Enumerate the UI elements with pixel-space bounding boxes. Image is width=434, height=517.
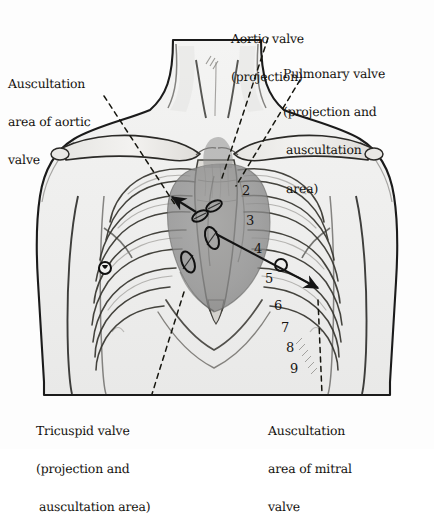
rib-number-2: 2: [242, 183, 250, 198]
label-line: Auscultation: [8, 78, 91, 91]
label-line: valve: [8, 154, 91, 167]
label-line: auscultation: [283, 144, 385, 157]
label-tricuspid-valve: Tricuspid valve (projection and ausculta…: [36, 399, 150, 517]
label-line: Pulmonary valve: [283, 68, 385, 81]
label-aortic-auscultation: Auscultation area of aortic valve: [8, 52, 91, 193]
label-line: auscultation area): [36, 501, 150, 514]
label-line: Tricuspid valve: [36, 425, 150, 438]
rib-number-9: 9: [290, 361, 298, 376]
rib-number-5: 5: [265, 271, 273, 286]
aortic-auscultation-point: [99, 262, 111, 274]
rib-number-8: 8: [286, 340, 294, 355]
rib-number-4: 4: [254, 241, 262, 256]
label-line: (projection and: [36, 463, 150, 476]
rib-number-3: 3: [246, 213, 254, 228]
label-pulmonary-valve: Pulmonary valve (projection and ausculta…: [283, 42, 385, 221]
label-line: area of mitral: [268, 463, 352, 476]
rib-number-6: 6: [274, 298, 282, 313]
label-line: area): [283, 183, 385, 196]
label-line: valve: [268, 501, 352, 514]
label-mitral-auscultation: Auscultation area of mitral valve: [268, 399, 352, 517]
rib-number-7: 7: [281, 320, 289, 335]
label-line: (projection and: [283, 106, 385, 119]
label-line: area of aortic: [8, 116, 91, 129]
label-line: Auscultation: [268, 425, 352, 438]
